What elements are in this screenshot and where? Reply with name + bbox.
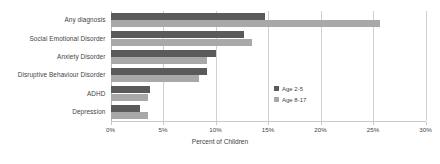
gridline-5% xyxy=(163,11,164,121)
x-tick-label: 0% xyxy=(96,126,126,133)
bar xyxy=(111,31,244,38)
x-tick-label: 10% xyxy=(201,126,231,133)
x-tick xyxy=(426,122,427,125)
category-label: Social Emotional Disorder xyxy=(0,35,106,42)
gridline-30% xyxy=(426,11,427,121)
category-label: Disruptive Behaviour Disorder xyxy=(0,71,106,78)
legend-swatch-icon xyxy=(274,86,279,91)
x-tick-label: 5% xyxy=(148,126,178,133)
bar xyxy=(111,94,149,101)
gridline-25% xyxy=(373,11,374,121)
legend-item[interactable]: Age 8-17 xyxy=(274,95,306,104)
bar xyxy=(111,57,208,64)
x-tick xyxy=(216,122,217,125)
x-tick xyxy=(111,122,112,125)
gridline-15% xyxy=(268,11,269,121)
x-tick-label: 15% xyxy=(253,126,283,133)
x-tick-label: 30% xyxy=(411,126,440,133)
gridline-10% xyxy=(216,11,217,121)
legend-label: Age 8-17 xyxy=(282,97,306,103)
category-label: ADHD xyxy=(0,90,106,97)
top-cutoff-note xyxy=(300,0,440,5)
x-axis-title: Percent of Children xyxy=(0,138,440,145)
bar xyxy=(111,68,208,75)
category-label: Any diagnosis xyxy=(0,16,106,23)
x-tick xyxy=(268,122,269,125)
legend-item[interactable]: Age 2-5 xyxy=(274,84,306,93)
gridline-20% xyxy=(321,11,322,121)
x-tick xyxy=(373,122,374,125)
bar xyxy=(111,75,199,82)
legend-label: Age 2-5 xyxy=(282,86,303,92)
legend: Age 2-5Age 8-17 xyxy=(274,84,306,106)
bar xyxy=(111,13,265,20)
legend-swatch-icon xyxy=(274,97,279,102)
bar-chart: 0%5%10%15%20%25%30%Percent of ChildrenAn… xyxy=(0,0,440,164)
bar xyxy=(111,50,216,57)
bar xyxy=(111,20,381,27)
category-label: Anxiety Disorder xyxy=(0,53,106,60)
bar xyxy=(111,105,140,112)
bar xyxy=(111,39,253,46)
category-label: Depression xyxy=(0,108,106,115)
bar xyxy=(111,112,149,119)
x-tick xyxy=(163,122,164,125)
x-tick-label: 20% xyxy=(306,126,336,133)
x-tick xyxy=(321,122,322,125)
x-tick-label: 25% xyxy=(358,126,388,133)
bar xyxy=(111,86,151,93)
